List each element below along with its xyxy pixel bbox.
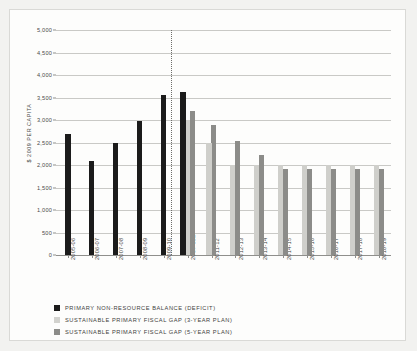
y-tick-label: 1,500 — [37, 185, 52, 191]
bar — [331, 169, 336, 255]
legend-item-fiscal-gap-5-year-plan[interactable]: SUSTAINABLE PRIMARY FISCAL GAP (5-YEAR P… — [54, 326, 384, 337]
bar-group — [200, 30, 224, 255]
x-tick-label: 2007-08 — [118, 238, 124, 260]
bar — [161, 95, 166, 255]
x-tick-mark — [92, 255, 93, 258]
bar-group — [80, 30, 104, 255]
bar — [113, 143, 118, 256]
x-tick-label: 2008-09 — [142, 238, 148, 260]
bar — [259, 155, 264, 255]
bar-group — [224, 30, 248, 255]
bar — [307, 169, 312, 255]
bar — [180, 92, 185, 255]
x-axis-line — [56, 255, 391, 256]
bar-group — [128, 30, 152, 255]
bar — [355, 169, 360, 255]
y-tick-label: 0 — [49, 252, 52, 258]
y-tick-label: 1,000 — [37, 207, 52, 213]
bar-group — [176, 30, 200, 255]
bar — [206, 143, 211, 256]
y-tick-label: 5,000 — [37, 27, 52, 33]
plot-wrapper: $ 2009 PER CAPITA 05001,0001,5002,0002,5… — [10, 10, 407, 342]
bar-group — [295, 30, 319, 255]
x-tick-mark — [164, 255, 165, 258]
bar — [137, 121, 142, 255]
bar — [185, 120, 190, 255]
legend-label: SUSTAINABLE PRIMARY FISCAL GAP (3-YEAR P… — [65, 317, 232, 323]
legend-swatch-icon — [54, 317, 60, 323]
x-tick-label: 2005-06 — [70, 238, 76, 260]
y-tick-label: 4,000 — [37, 72, 52, 78]
x-tick-mark — [68, 255, 69, 258]
legend-item-primary-non-resource-balance[interactable]: PRIMARY NON-RESOURCE BALANCE (DEFICIT) — [54, 302, 384, 313]
legend-swatch-icon — [54, 329, 60, 335]
forecast-divider — [171, 30, 172, 255]
x-tick-mark — [283, 255, 284, 258]
y-tick-label: 3,500 — [37, 95, 52, 101]
bar-group — [247, 30, 271, 255]
bar — [230, 165, 235, 255]
x-tick-mark — [379, 255, 380, 258]
bar-group — [367, 30, 391, 255]
x-tick-label: 2006-07 — [94, 238, 100, 260]
x-tick-mark — [140, 255, 141, 258]
x-tick-mark — [188, 255, 189, 258]
bar-group — [319, 30, 343, 255]
bar — [190, 111, 195, 255]
bar — [65, 134, 70, 255]
bar — [235, 141, 240, 255]
bar — [211, 125, 216, 255]
chart-frame: $ 2009 PER CAPITA 05001,0001,5002,0002,5… — [9, 9, 406, 341]
bar-group — [343, 30, 367, 255]
x-tick-mark — [235, 255, 236, 258]
bar — [302, 165, 307, 255]
y-axis-label: $ 2009 PER CAPITA — [26, 78, 32, 188]
legend-label: SUSTAINABLE PRIMARY FISCAL GAP (5-YEAR P… — [65, 329, 232, 335]
y-tick-label: 3,000 — [37, 117, 52, 123]
x-tick-mark — [355, 255, 356, 258]
bar — [350, 165, 355, 255]
figure-background: $ 2009 PER CAPITA 05001,0001,5002,0002,5… — [0, 0, 417, 351]
plot-area: 05001,0001,5002,0002,5003,0003,5004,0004… — [56, 30, 391, 255]
bar — [378, 169, 383, 255]
chart-legend: PRIMARY NON-RESOURCE BALANCE (DEFICIT) S… — [54, 302, 384, 338]
bar — [326, 165, 331, 255]
x-tick-mark — [212, 255, 213, 258]
x-tick-mark — [259, 255, 260, 258]
bar — [278, 165, 283, 255]
bar-group — [56, 30, 80, 255]
bar — [254, 165, 259, 255]
legend-item-fiscal-gap-3-year-plan[interactable]: SUSTAINABLE PRIMARY FISCAL GAP (3-YEAR P… — [54, 314, 384, 325]
y-tick-label: 500 — [42, 230, 52, 236]
bar — [374, 165, 379, 255]
bar-group — [104, 30, 128, 255]
y-tick-label: 2,500 — [37, 140, 52, 146]
legend-label: PRIMARY NON-RESOURCE BALANCE (DEFICIT) — [65, 305, 216, 311]
x-tick-mark — [116, 255, 117, 258]
y-tick-label: 4,500 — [37, 50, 52, 56]
bar — [89, 161, 94, 255]
bar — [283, 169, 288, 255]
y-tick-label: 2,000 — [37, 162, 52, 168]
bar-group — [271, 30, 295, 255]
bar-group — [152, 30, 176, 255]
legend-swatch-icon — [54, 305, 60, 311]
